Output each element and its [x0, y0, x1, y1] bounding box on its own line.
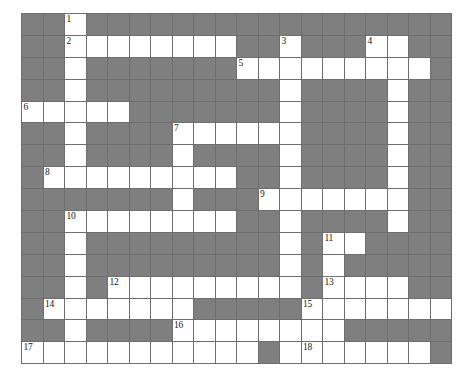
crossword-cell-open[interactable]: [387, 167, 409, 189]
crossword-cell-open[interactable]: [129, 211, 151, 233]
crossword-cell-open[interactable]: 8: [43, 167, 65, 189]
crossword-cell-open[interactable]: [366, 276, 388, 298]
crossword-cell-open[interactable]: 3: [280, 35, 302, 57]
crossword-cell-open[interactable]: [151, 342, 173, 364]
crossword-cell-open[interactable]: [151, 298, 173, 320]
crossword-cell-open[interactable]: [409, 298, 431, 320]
crossword-cell-open[interactable]: 13: [323, 276, 345, 298]
crossword-cell-open[interactable]: [366, 189, 388, 211]
crossword-cell-open[interactable]: [344, 342, 366, 364]
crossword-cell-open[interactable]: [65, 342, 87, 364]
crossword-cell-open[interactable]: [65, 320, 87, 342]
crossword-cell-open[interactable]: [172, 189, 194, 211]
crossword-cell-open[interactable]: [280, 167, 302, 189]
crossword-cell-open[interactable]: [65, 79, 87, 101]
crossword-cell-open[interactable]: [215, 276, 237, 298]
crossword-cell-open[interactable]: 12: [108, 276, 130, 298]
crossword-cell-open[interactable]: [108, 167, 130, 189]
crossword-cell-open[interactable]: [258, 57, 280, 79]
crossword-cell-open[interactable]: [215, 123, 237, 145]
crossword-cell-open[interactable]: [237, 123, 259, 145]
crossword-cell-open[interactable]: [65, 298, 87, 320]
crossword-cell-open[interactable]: [323, 189, 345, 211]
crossword-cell-open[interactable]: 11: [323, 232, 345, 254]
crossword-cell-open[interactable]: [280, 276, 302, 298]
crossword-cell-open[interactable]: [409, 57, 431, 79]
crossword-cell-open[interactable]: [129, 298, 151, 320]
crossword-cell-open[interactable]: [280, 211, 302, 233]
crossword-cell-open[interactable]: [86, 167, 108, 189]
crossword-cell-open[interactable]: [280, 123, 302, 145]
crossword-cell-open[interactable]: [65, 167, 87, 189]
crossword-cell-open[interactable]: 7: [172, 123, 194, 145]
crossword-cell-open[interactable]: 10: [65, 211, 87, 233]
crossword-cell-open[interactable]: [172, 35, 194, 57]
crossword-cell-open[interactable]: [86, 342, 108, 364]
crossword-cell-open[interactable]: [280, 254, 302, 276]
crossword-cell-open[interactable]: 2: [65, 35, 87, 57]
crossword-cell-open[interactable]: [237, 276, 259, 298]
crossword-cell-open[interactable]: [323, 342, 345, 364]
crossword-cell-open[interactable]: [108, 101, 130, 123]
crossword-cell-open[interactable]: [129, 167, 151, 189]
crossword-cell-open[interactable]: [387, 145, 409, 167]
crossword-cell-open[interactable]: [237, 342, 259, 364]
crossword-cell-open[interactable]: 18: [301, 342, 323, 364]
crossword-cell-open[interactable]: [323, 57, 345, 79]
crossword-cell-open[interactable]: 1: [65, 14, 87, 36]
crossword-cell-open[interactable]: [194, 167, 216, 189]
crossword-cell-open[interactable]: 9: [258, 189, 280, 211]
crossword-cell-open[interactable]: [86, 298, 108, 320]
crossword-cell-open[interactable]: 4: [366, 35, 388, 57]
crossword-cell-open[interactable]: [258, 123, 280, 145]
crossword-cell-open[interactable]: [280, 101, 302, 123]
crossword-cell-open[interactable]: [172, 167, 194, 189]
crossword-cell-open[interactable]: [366, 57, 388, 79]
crossword-cell-open[interactable]: [344, 276, 366, 298]
crossword-cell-open[interactable]: [344, 189, 366, 211]
crossword-cell-open[interactable]: [172, 211, 194, 233]
crossword-cell-open[interactable]: [194, 211, 216, 233]
crossword-cell-open[interactable]: [387, 298, 409, 320]
crossword-cell-open[interactable]: [215, 342, 237, 364]
crossword-cell-open[interactable]: [344, 298, 366, 320]
crossword-cell-open[interactable]: [323, 298, 345, 320]
crossword-cell-open[interactable]: [194, 35, 216, 57]
crossword-cell-open[interactable]: [215, 211, 237, 233]
crossword-cell-open[interactable]: [387, 101, 409, 123]
crossword-cell-open[interactable]: [387, 276, 409, 298]
crossword-cell-open[interactable]: 15: [301, 298, 323, 320]
crossword-cell-open[interactable]: [65, 145, 87, 167]
crossword-cell-open[interactable]: [215, 35, 237, 57]
crossword-cell-open[interactable]: [215, 167, 237, 189]
crossword-cell-open[interactable]: [129, 276, 151, 298]
crossword-cell-open[interactable]: [43, 342, 65, 364]
crossword-cell-open[interactable]: [172, 276, 194, 298]
crossword-cell-open[interactable]: [387, 189, 409, 211]
crossword-cell-open[interactable]: [387, 342, 409, 364]
crossword-cell-open[interactable]: [129, 342, 151, 364]
crossword-cell-open[interactable]: [323, 320, 345, 342]
crossword-cell-open[interactable]: [280, 189, 302, 211]
crossword-cell-open[interactable]: [194, 342, 216, 364]
crossword-cell-open[interactable]: [301, 57, 323, 79]
crossword-cell-open[interactable]: [387, 35, 409, 57]
crossword-cell-open[interactable]: [344, 57, 366, 79]
crossword-cell-open[interactable]: [280, 145, 302, 167]
crossword-cell-open[interactable]: 6: [22, 101, 44, 123]
crossword-cell-open[interactable]: [194, 276, 216, 298]
crossword-cell-open[interactable]: [65, 232, 87, 254]
crossword-cell-open[interactable]: [237, 320, 259, 342]
crossword-cell-open[interactable]: [387, 123, 409, 145]
crossword-cell-open[interactable]: [108, 342, 130, 364]
crossword-cell-open[interactable]: [301, 320, 323, 342]
crossword-cell-open[interactable]: [280, 232, 302, 254]
crossword-cell-open[interactable]: [151, 276, 173, 298]
crossword-cell-open[interactable]: [301, 189, 323, 211]
crossword-cell-open[interactable]: [86, 101, 108, 123]
crossword-cell-open[interactable]: [344, 232, 366, 254]
crossword-cell-open[interactable]: 14: [43, 298, 65, 320]
crossword-cell-open[interactable]: [172, 298, 194, 320]
crossword-cell-open[interactable]: [280, 79, 302, 101]
crossword-cell-open[interactable]: [43, 101, 65, 123]
